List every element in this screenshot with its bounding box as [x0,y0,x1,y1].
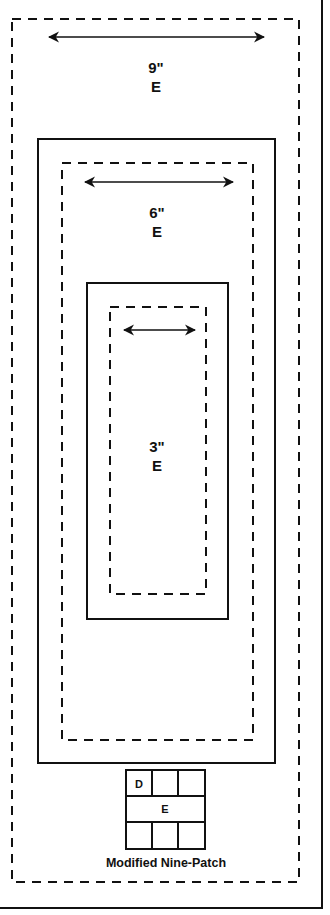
nine-patch-cell-d-label: D [135,778,143,790]
border-3-fabric-label: E [152,457,162,474]
nine-patch-center-e-label: E [161,803,168,815]
border-6-size-label: 6" [149,204,164,221]
border-3-size-label: 3" [149,438,164,455]
nine-patch-block: D E [126,770,205,849]
border-6-fabric-label: E [152,223,162,240]
border-9-fabric-label: E [151,78,161,95]
quilt-border-diagram: 9" E 6" E 3" E D E Modified Nine-Patch [0,0,330,915]
diagram-caption: Modified Nine-Patch [106,856,226,870]
border-9-size-label: 9" [148,59,163,76]
